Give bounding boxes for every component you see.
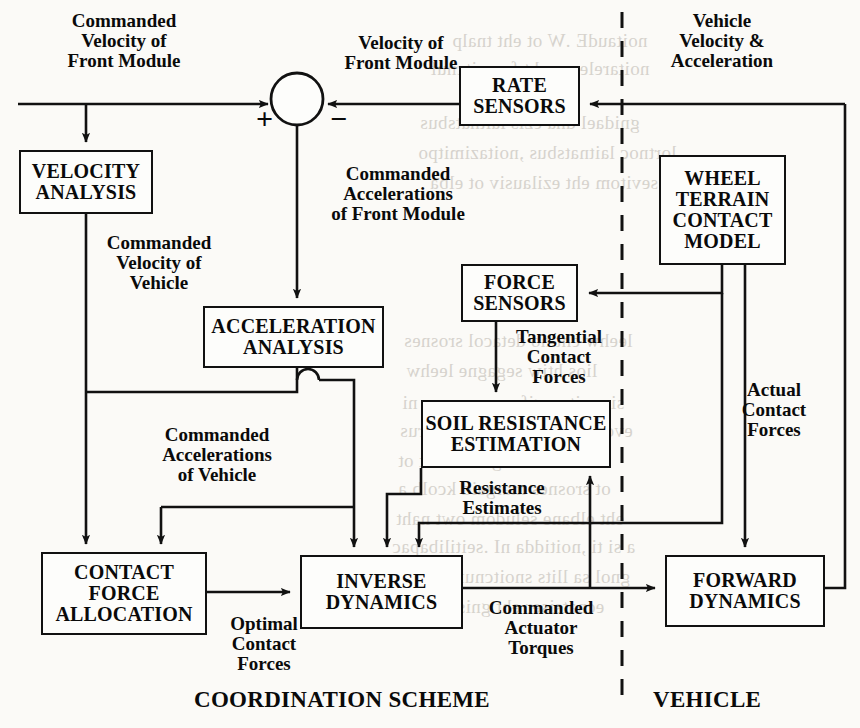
- wire-actual-to-force-sensors: [589, 265, 722, 293]
- wire-acceleration-bus-right: [319, 380, 354, 507]
- wire-resistance-estimates: [387, 468, 421, 547]
- zone-label-vehicle: VEHICLE: [653, 687, 761, 713]
- signal-label-actual_contact_forces: Actual Contact Forces: [722, 380, 826, 440]
- summing-minus-sign: −: [330, 104, 347, 134]
- signal-label-commanded_velocity_front_module: Commanded Velocity of Front Module: [26, 11, 222, 71]
- block-diagram-page: noitaudE .W ot eht tnalpnoitarelecca eht…: [0, 0, 860, 728]
- block-forward_dynamics: FORWARD DYNAMICS: [665, 555, 825, 627]
- block-acceleration_analysis: ACCELERATION ANALYSIS: [203, 306, 384, 368]
- block-soil_resistance_estimation: SOIL RESISTANCE ESTIMATION: [421, 400, 611, 468]
- block-velocity_analysis: VELOCITY ANALYSIS: [19, 150, 153, 214]
- summing-junction-circle: [271, 73, 323, 125]
- wire-acceleration-stub: [286, 380, 297, 392]
- block-rate_sensors: RATE SENSORS: [459, 66, 580, 126]
- zone-label-coordination_scheme: COORDINATION SCHEME: [194, 687, 490, 713]
- wire-crossover-hop: [297, 369, 319, 380]
- block-inverse_dynamics: INVERSE DYNAMICS: [300, 555, 463, 629]
- signal-label-resistance_estimates: Resistance Estimates: [432, 478, 572, 518]
- block-contact_force_allocation: CONTACT FORCE ALLOCATION: [41, 552, 207, 635]
- block-force_sensors: FORCE SENSORS: [461, 264, 578, 322]
- signal-label-optimal_contact_forces: Optimal Contact Forces: [216, 614, 312, 674]
- signal-label-vehicle_velocity_acceleration: Vehicle Velocity & Acceleration: [638, 11, 806, 71]
- summing-plus-sign: +: [256, 104, 273, 134]
- signal-label-commanded_velocity_vehicle: Commanded Velocity of Vehicle: [81, 233, 237, 293]
- signal-label-tangential_contact_forces: Tangential Contact Forces: [494, 327, 624, 387]
- block-wheel_terrain_contact_model: WHEEL TERRAIN CONTACT MODEL: [659, 155, 786, 265]
- signal-label-velocity_of_front_module: Velocity of Front Module: [316, 33, 486, 73]
- signal-label-commanded_accelerations_vehicle: Commanded Accelerations of Vehicle: [131, 425, 303, 485]
- signal-label-commanded_actuator_torques: Commanded Actuator Torques: [467, 598, 615, 658]
- signal-label-commanded_accelerations_front_module: Commanded Accelerations of Front Module: [300, 164, 496, 224]
- wire-forward-dynamics-feedback-bus: [825, 104, 845, 588]
